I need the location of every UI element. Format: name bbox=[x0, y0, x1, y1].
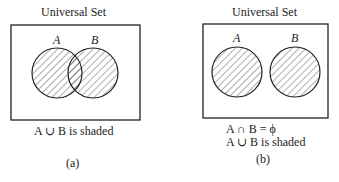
panel-b-label-a: A bbox=[233, 31, 240, 46]
venn-diagrams bbox=[0, 0, 339, 182]
panel-a-caption: A ∪ B is shaded bbox=[34, 124, 113, 139]
panel-a-title: Universal Set bbox=[41, 5, 106, 20]
panel-a-label: (a) bbox=[66, 156, 79, 171]
panel-b-title: Universal Set bbox=[232, 5, 297, 20]
set-a-circle-b bbox=[212, 47, 262, 97]
set-b-circle-b bbox=[270, 47, 320, 97]
panel-b-label-b: B bbox=[291, 31, 298, 46]
panel-a-label-b: B bbox=[91, 33, 98, 48]
panel-b-label: (b) bbox=[256, 152, 270, 167]
panel-b-caption-2: A ∪ B is shaded bbox=[226, 135, 305, 150]
panel-a-label-a: A bbox=[53, 33, 60, 48]
set-b-circle-a bbox=[68, 48, 118, 98]
